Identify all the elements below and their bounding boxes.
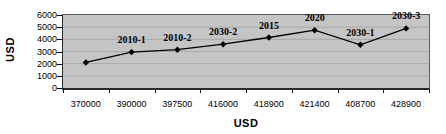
data-point-label: 2010-1 xyxy=(117,35,145,45)
y-axis-tick-mark xyxy=(57,52,62,53)
y-axis-tick-mark xyxy=(57,64,62,65)
x-axis-tick-mark xyxy=(155,90,156,93)
y-axis-tick-label: 6000 xyxy=(27,10,57,20)
x-axis-title: USD xyxy=(62,117,430,129)
y-axis-tick-label: 5000 xyxy=(27,22,57,32)
data-point-label: 2015 xyxy=(259,21,279,31)
x-axis-tick-label: 390000 xyxy=(109,99,155,109)
x-axis-tick-mark xyxy=(292,90,293,93)
data-point-marker xyxy=(357,42,363,48)
x-axis-tick-mark xyxy=(63,90,64,93)
data-point-label: 2030-3 xyxy=(392,11,420,21)
x-axis-tick-mark xyxy=(200,90,201,93)
data-point-label: 2020 xyxy=(305,13,325,23)
x-axis-tick-label: 418900 xyxy=(246,99,292,109)
data-point-marker xyxy=(83,59,89,65)
data-point-marker xyxy=(403,25,409,31)
x-axis-tick-label: 416000 xyxy=(200,99,246,109)
x-axis-tick-mark xyxy=(246,90,247,93)
y-axis-tick-mark xyxy=(57,15,62,16)
plot-area: 2010-12010-22030-2201520202030-12030-3 xyxy=(62,14,430,90)
y-axis-tick-label: 4000 xyxy=(27,34,57,44)
x-axis-tick-mark xyxy=(109,90,110,93)
data-point-marker xyxy=(311,27,317,33)
data-point-marker xyxy=(128,49,134,55)
x-axis-tick-mark xyxy=(383,90,384,93)
x-axis-tick-mark xyxy=(429,90,430,93)
x-axis-tick-label: 397500 xyxy=(154,99,200,109)
x-axis-tick-label: 421400 xyxy=(292,99,338,109)
y-axis-tick-mark xyxy=(57,39,62,40)
y-axis-title: USD xyxy=(4,29,17,71)
y-axis-tick-mark xyxy=(57,76,62,77)
data-point-label: 2030-2 xyxy=(209,27,237,37)
y-axis-tick-label: 1000 xyxy=(27,71,57,81)
x-axis-tick-label: 428900 xyxy=(383,99,429,109)
y-axis-tick-mark xyxy=(57,27,62,28)
y-axis-tick-mark xyxy=(57,88,62,89)
y-axis-tick-label: 3000 xyxy=(27,47,57,57)
x-axis-tick-label: 408700 xyxy=(337,99,383,109)
data-point-label: 2010-2 xyxy=(163,33,191,43)
data-point-marker xyxy=(220,41,226,47)
x-axis-tick-mark xyxy=(338,90,339,93)
x-axis-tick-label: 370000 xyxy=(63,99,109,109)
y-axis-tick-label: 0 xyxy=(27,83,57,93)
data-point-label: 2030-1 xyxy=(346,28,374,38)
y-axis-tick-label: 2000 xyxy=(27,59,57,69)
line-chart: USD 2010-12010-22030-2201520202030-12030… xyxy=(0,0,446,134)
